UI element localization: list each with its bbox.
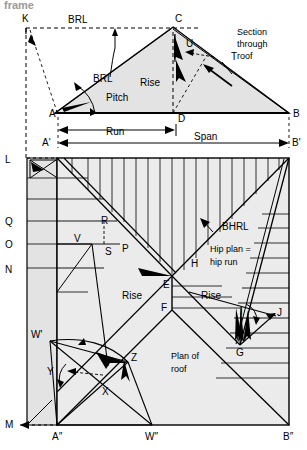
label-rise-section: Rise (140, 77, 160, 88)
point-label-Bpp: B″ (283, 431, 294, 442)
point-label-T: T (231, 51, 237, 62)
point-label-R: R (101, 215, 108, 226)
section-caption-line1: Section (237, 27, 267, 37)
run-dim-arrow-right (165, 126, 175, 134)
plan-of-roof-group (20, 158, 289, 429)
point-label-L: L (5, 154, 11, 165)
section-caption-line2: through (237, 39, 268, 49)
point-label-G: G (236, 347, 244, 358)
point-label-Wpp: W″ (145, 431, 158, 442)
point-label-P: P (122, 243, 129, 254)
label-bhrl: BHRL (222, 221, 249, 232)
plan-left-strip (27, 158, 57, 425)
pitch-arc-arrowhead-top (74, 82, 82, 91)
span-dim-arrow-right (279, 139, 289, 147)
section-caption-line3: roof (237, 51, 253, 61)
point-label-Ap: A' (42, 137, 51, 148)
label-hip-plan-line2: hip run (210, 257, 238, 267)
label-span: Span (194, 131, 217, 142)
point-label-Bp: B' (292, 137, 301, 148)
point-label-C: C (175, 13, 182, 24)
point-label-Q: Q (5, 216, 13, 227)
point-label-Z: Z (131, 352, 137, 363)
point-label-J: J (277, 307, 282, 318)
cutoff-heading: frame (4, 0, 34, 11)
label-hip-plan-line1: Hip plan = (210, 244, 251, 254)
point-label-V: V (74, 233, 81, 244)
label-rise-plan-left: Rise (122, 290, 142, 301)
point-label-Y: Y (47, 366, 54, 377)
point-label-Wp: W' (31, 329, 42, 340)
span-dim-arrow-left (58, 139, 68, 147)
point-label-B: B (293, 108, 300, 119)
figure-canvas: frame BRL BRL Rise Pitch Run Span Sectio… (0, 0, 307, 450)
point-label-S: S (105, 246, 112, 257)
label-pitch: Pitch (106, 92, 128, 103)
point-label-D: D (178, 113, 185, 124)
label-brl-top: BRL (68, 14, 88, 25)
label-run: Run (106, 126, 124, 137)
point-label-I: I (240, 306, 243, 317)
brl-callout-arrowhead (112, 28, 118, 36)
point-label-F: F (161, 302, 167, 313)
point-label-H: H (191, 258, 198, 269)
point-label-O: O (5, 239, 13, 250)
point-label-E: E (163, 279, 170, 290)
point-label-U: U (186, 38, 193, 49)
point-label-M: M (5, 419, 13, 430)
roof-geometry-figure: frame BRL BRL Rise Pitch Run Span Sectio… (0, 0, 307, 450)
point-label-K: K (22, 13, 29, 24)
label-rise-plan-right: Rise (201, 290, 221, 301)
point-label-X: X (102, 386, 109, 397)
plan-caption-line2: roof (171, 364, 187, 374)
point-label-A: A (49, 108, 56, 119)
run-dim-arrow-left (58, 126, 68, 134)
point-label-N: N (5, 264, 12, 275)
point-label-App: A″ (52, 431, 63, 442)
plan-caption-line1: Plan of (171, 351, 200, 361)
label-brl-leader: BRL (93, 73, 113, 84)
